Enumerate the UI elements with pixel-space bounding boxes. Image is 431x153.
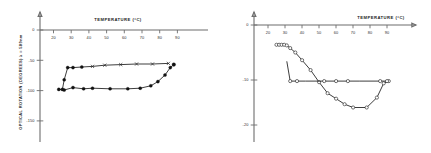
right-lower-point bbox=[335, 80, 338, 83]
right-upper-point bbox=[365, 106, 368, 109]
left-ytick-label-0: 0 bbox=[32, 27, 35, 32]
left-heating-point bbox=[80, 65, 83, 68]
right-x-ticks: 20 30 40 50 60 70 80 90 bbox=[266, 25, 390, 35]
left-xtick-label-5: 70 bbox=[140, 35, 145, 40]
left-heating-point bbox=[71, 66, 74, 69]
right-ytick-label-2: -20 bbox=[243, 122, 250, 127]
left-cooling-point bbox=[139, 87, 142, 90]
right-upper-point bbox=[326, 92, 329, 95]
right-xtick-label-2: 40 bbox=[300, 30, 305, 35]
right-xtick-label-7: 90 bbox=[385, 30, 390, 35]
right-upper-point bbox=[289, 47, 292, 50]
left-axes bbox=[38, 12, 208, 142]
right-xtick-label-4: 60 bbox=[334, 30, 339, 35]
right-upper-point bbox=[301, 59, 304, 62]
left-xtick-label-2: 40 bbox=[87, 35, 92, 40]
right-upper-point bbox=[352, 106, 355, 109]
right-upper-point bbox=[343, 103, 346, 106]
right-xtick-label-5: 70 bbox=[351, 30, 356, 35]
right-upper-branch bbox=[275, 43, 391, 109]
right-lower-point bbox=[379, 80, 382, 83]
figure-two-panel-plots: 20 30 40 50 60 70 80 90 0 -50 -100 -150 … bbox=[0, 0, 431, 153]
right-lower-branch bbox=[287, 61, 389, 82]
left-y-ticks: 0 -50 -100 -150 bbox=[26, 27, 43, 123]
right-upper-point bbox=[285, 44, 288, 47]
left-heating-point bbox=[66, 66, 69, 69]
right-lower-point bbox=[295, 80, 298, 83]
right-lower-point bbox=[385, 80, 388, 83]
right-xtick-label-1: 30 bbox=[283, 30, 288, 35]
right-upper-point bbox=[309, 69, 312, 72]
left-cooling-point bbox=[172, 63, 176, 67]
left-xtick-label-3: 50 bbox=[104, 35, 109, 40]
right-chart-svg: 20 30 40 50 60 70 80 90 0 -10 -20 TEMPER… bbox=[216, 0, 431, 153]
chart-panel-right: 20 30 40 50 60 70 80 90 0 -10 -20 TEMPER… bbox=[216, 0, 431, 153]
right-upper-point bbox=[335, 97, 338, 100]
right-lower-line bbox=[287, 61, 387, 81]
left-xtick-label-0: 20 bbox=[51, 35, 56, 40]
right-x-axis-title: TEMPERATURE (°C) bbox=[357, 15, 405, 20]
right-xtick-label-0: 20 bbox=[266, 30, 271, 35]
right-upper-point bbox=[382, 82, 385, 85]
left-cooling-point bbox=[169, 66, 172, 69]
right-upper-line bbox=[277, 45, 389, 108]
left-cooling-point bbox=[71, 86, 74, 89]
right-upper-point bbox=[375, 96, 378, 99]
left-cooling-point bbox=[156, 80, 159, 83]
left-cooling-point bbox=[63, 88, 66, 91]
left-heating-point bbox=[63, 78, 66, 81]
right-xtick-label-6: 80 bbox=[368, 30, 373, 35]
left-cooling-point bbox=[82, 87, 85, 90]
left-cooling-line bbox=[59, 65, 174, 90]
left-cooling-point bbox=[163, 73, 166, 76]
left-x-axis-title: TEMPERATURE (°C) bbox=[94, 17, 142, 22]
left-cooling-point bbox=[91, 87, 94, 90]
left-xtick-label-7: 90 bbox=[175, 35, 180, 40]
left-xtick-label-4: 60 bbox=[122, 35, 127, 40]
right-lower-point bbox=[323, 80, 326, 83]
right-upper-point bbox=[294, 51, 297, 54]
right-lower-point bbox=[289, 80, 292, 83]
right-xtick-label-3: 50 bbox=[317, 30, 322, 35]
left-cooling-point bbox=[126, 87, 129, 90]
left-xtick-label-6: 80 bbox=[157, 35, 162, 40]
right-lower-point bbox=[346, 80, 349, 83]
right-ytick-label-1: -10 bbox=[243, 77, 250, 82]
right-y-ticks: 0 -10 -20 bbox=[243, 22, 258, 127]
left-ytick-label-2: -100 bbox=[26, 88, 35, 93]
right-ytick-label-0: 0 bbox=[246, 22, 249, 27]
left-ytick-label-3: -150 bbox=[26, 118, 35, 123]
left-cooling-point bbox=[149, 84, 152, 87]
left-chart-svg: 20 30 40 50 60 70 80 90 0 -50 -100 -150 … bbox=[0, 0, 215, 153]
chart-panel-left: 20 30 40 50 60 70 80 90 0 -50 -100 -150 … bbox=[0, 0, 215, 153]
left-y-axis-title: OPTICAL ROTATION (DEGREES) λ = 589nm bbox=[18, 34, 23, 129]
left-cooling-point bbox=[109, 87, 112, 90]
left-x-ticks: 20 30 40 50 60 70 80 90 bbox=[51, 30, 180, 40]
left-xtick-label-1: 30 bbox=[69, 35, 74, 40]
left-ytick-label-1: -50 bbox=[29, 58, 36, 63]
